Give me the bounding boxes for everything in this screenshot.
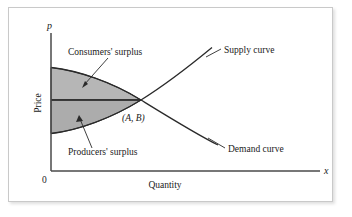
consumers-surplus-region bbox=[51, 68, 141, 101]
economics-surplus-figure: p x 0 Price Quantity Consumers' surplus … bbox=[0, 0, 352, 217]
supply-curve-label: Supply curve bbox=[224, 45, 274, 55]
origin-label: 0 bbox=[42, 175, 47, 185]
producers-surplus-label: Producers' surplus bbox=[68, 147, 138, 157]
y-axis-title: Price bbox=[33, 93, 43, 113]
x-axis-title: Quantity bbox=[148, 180, 181, 190]
equilibrium-point-label: (A, B) bbox=[122, 113, 145, 124]
consumers-surplus-label: Consumers' surplus bbox=[68, 47, 143, 57]
demand-curve-leader bbox=[208, 138, 225, 148]
demand-curve-label: Demand curve bbox=[228, 144, 284, 154]
surplus-plot: p x 0 Price Quantity Consumers' surplus … bbox=[0, 0, 352, 217]
x-axis-variable-label: x bbox=[323, 165, 329, 176]
y-axis-variable-label: p bbox=[46, 20, 52, 31]
